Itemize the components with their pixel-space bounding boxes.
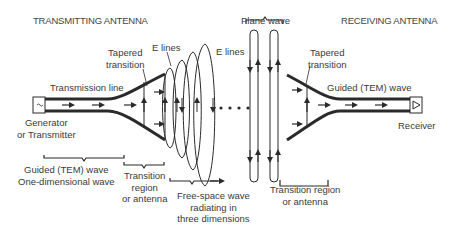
- tapered-transition-left-label: Tapered transition: [106, 47, 145, 70]
- brace-transition-left: [124, 162, 164, 168]
- free-space-wave-label: Free-space wave radiating in three dimen…: [177, 190, 250, 225]
- plane-wave-arrows: [250, 60, 278, 162]
- receiving-antenna-title: RECEIVING ANTENNA: [341, 15, 437, 27]
- propagation-dots: [219, 106, 249, 109]
- guided-wave-left-label: Guided (TEM) wave One-dimensional wave: [18, 164, 115, 187]
- radiating-wavefronts: [163, 44, 215, 186]
- receiver-label: Receiver: [398, 120, 436, 132]
- transmitting-arrows: [62, 92, 165, 124]
- receiving-arrows: [292, 90, 385, 124]
- e-lines-left-label: E lines: [152, 42, 181, 54]
- braces: [44, 17, 328, 186]
- plane-wave-label: Plane wave: [241, 15, 290, 27]
- wavefront-arrows: [177, 98, 213, 112]
- transition-region-left-label: Transition region or antenna: [122, 170, 167, 205]
- brace-guided: [44, 155, 124, 161]
- transition-region-right-label: Transition region or antenna: [270, 184, 340, 207]
- transmission-line-label: Transmission line: [50, 82, 124, 94]
- generator-label: Generator or Transmitter: [17, 117, 76, 140]
- transmitting-antenna-title: TRANSMITTING ANTENNA: [33, 15, 148, 27]
- guided-wave-right-label: Guided (TEM) wave: [327, 82, 411, 94]
- tapered-transition-right-label: Tapered transition: [308, 47, 347, 70]
- receiver-icon: [410, 97, 422, 113]
- plane-wave-lines: [250, 30, 278, 182]
- e-lines-right-label: E lines: [216, 46, 245, 58]
- generator-icon: [33, 97, 45, 113]
